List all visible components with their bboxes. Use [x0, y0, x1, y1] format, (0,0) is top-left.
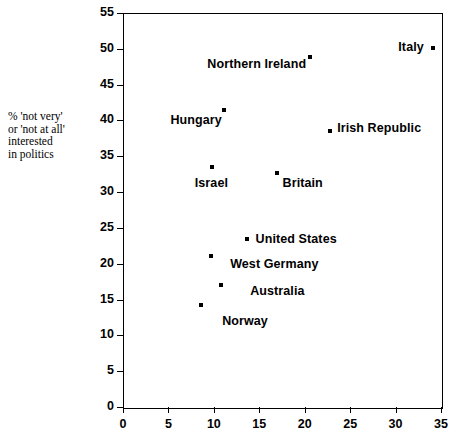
y-tick-label: 35	[100, 148, 114, 162]
y-tick-mark	[117, 85, 123, 86]
data-point	[222, 108, 226, 112]
data-point-label: West Germany	[230, 257, 319, 271]
data-point	[328, 129, 332, 133]
data-point	[199, 303, 203, 307]
y-tick-label: 55	[100, 5, 114, 19]
data-point-label: Hungary	[170, 113, 221, 127]
y-tick-mark	[117, 300, 123, 301]
data-point	[219, 283, 223, 287]
data-point-label: Northern Ireland	[207, 57, 306, 71]
data-point-label: Britain	[283, 176, 323, 190]
y-tick-label: 50	[100, 41, 114, 55]
x-tick-mark	[168, 407, 169, 413]
y-tick-mark	[117, 228, 123, 229]
y-axis-caption: % 'not very' or 'not at all' interested …	[8, 110, 108, 160]
x-tick-mark	[305, 407, 306, 413]
x-tick-mark	[350, 407, 351, 413]
x-tick-mark	[123, 407, 124, 413]
x-tick-label: 30	[389, 417, 403, 431]
data-point	[431, 46, 435, 50]
y-tick-label: 5	[107, 363, 114, 377]
y-tick-mark	[117, 371, 123, 372]
y-tick-mark	[117, 49, 123, 50]
y-tick-mark	[117, 13, 123, 14]
plot-area: 051015202530354045505505101520253035Ital…	[123, 13, 441, 407]
y-tick-mark	[117, 156, 123, 157]
x-tick-label: 5	[165, 417, 172, 431]
y-tick-label: 25	[100, 220, 114, 234]
x-tick-label: 10	[207, 417, 221, 431]
y-tick-label: 15	[100, 292, 114, 306]
y-tick-label: 40	[100, 112, 114, 126]
data-point	[275, 171, 279, 175]
data-point-label: Norway	[222, 314, 268, 328]
x-tick-mark	[259, 407, 260, 413]
x-tick-label: 15	[252, 417, 266, 431]
y-tick-mark	[117, 120, 123, 121]
data-point	[209, 254, 213, 258]
data-point-label: Irish Republic	[337, 121, 421, 135]
y-tick-label: 20	[100, 256, 114, 270]
data-point	[210, 165, 214, 169]
x-tick-mark	[441, 407, 442, 413]
data-point	[245, 237, 249, 241]
y-tick-mark	[117, 335, 123, 336]
y-tick-mark	[117, 192, 123, 193]
x-tick-label: 35	[434, 417, 448, 431]
y-tick-label: 10	[100, 327, 114, 341]
x-tick-mark	[396, 407, 397, 413]
x-tick-label: 25	[343, 417, 357, 431]
y-tick-label: 30	[100, 184, 114, 198]
data-point-label: United States	[256, 232, 337, 246]
x-tick-label: 20	[298, 417, 312, 431]
y-tick-label: 0	[107, 399, 114, 413]
data-point	[308, 55, 312, 59]
x-tick-mark	[214, 407, 215, 413]
data-point-label: Australia	[250, 284, 304, 298]
x-tick-label: 0	[120, 417, 127, 431]
data-point-label: Italy	[398, 40, 424, 54]
y-tick-label: 45	[100, 77, 114, 91]
data-point-label: Israel	[195, 176, 228, 190]
y-tick-mark	[117, 264, 123, 265]
chart-page: % 'not very' or 'not at all' interested …	[0, 0, 462, 437]
